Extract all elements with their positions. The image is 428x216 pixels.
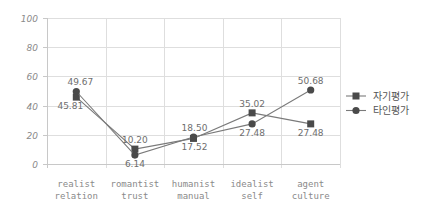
x-tick-label-line: trust xyxy=(121,191,148,201)
data-label: 6.14 xyxy=(125,159,145,169)
legend-item: 자기평가 xyxy=(346,91,409,102)
y-tick-label: 80 xyxy=(27,43,39,53)
x-tick-label-line: realist xyxy=(57,179,95,189)
x-tick-label-line: romantist xyxy=(111,179,160,189)
y-tick-label: 60 xyxy=(27,72,39,82)
square-marker-icon xyxy=(353,93,360,100)
x-tick-label: romantisttrust xyxy=(111,179,160,201)
square-marker-icon xyxy=(307,120,314,127)
legend-label: 타인평가 xyxy=(373,105,409,116)
legend: 자기평가타인평가 xyxy=(346,91,409,117)
x-tick-label-line: self xyxy=(241,191,263,201)
data-label: 27.48 xyxy=(298,128,324,138)
x-tick-label-line: relation xyxy=(55,191,98,201)
y-tick-label: 40 xyxy=(27,102,39,112)
y-tick-label: 20 xyxy=(27,131,39,141)
x-tick-label-line: agent xyxy=(297,179,324,189)
circle-marker-icon xyxy=(307,86,314,93)
data-label: 10.20 xyxy=(122,135,148,145)
x-tick-label-line: humanist xyxy=(172,179,215,189)
data-label: 18.50 xyxy=(182,123,208,133)
x-tick-label: agentculture xyxy=(292,179,330,201)
circle-marker-icon xyxy=(352,107,359,114)
square-marker-icon xyxy=(249,109,256,116)
circle-marker-icon xyxy=(249,120,256,127)
x-axis-tick-labels: realistrelationromantisttrusthumanistman… xyxy=(55,179,330,201)
data-label: 27.48 xyxy=(239,128,265,138)
circle-marker-icon xyxy=(73,88,80,95)
x-tick-label-line: idealist xyxy=(230,179,273,189)
x-tick-label: humanistmanual xyxy=(172,179,215,201)
legend-item: 타인평가 xyxy=(346,105,409,116)
data-label: 50.68 xyxy=(298,76,324,86)
y-tick-label: 100 xyxy=(21,14,38,24)
data-label: 49.67 xyxy=(67,77,93,87)
legend-label: 자기평가 xyxy=(373,91,409,102)
y-axis-tick-labels: 020406080100 xyxy=(21,14,38,170)
circle-marker-icon xyxy=(190,133,197,140)
x-tick-label-line: culture xyxy=(292,191,330,201)
data-labels: 49.6745.8110.206.1418.5017.5235.0227.485… xyxy=(57,76,323,169)
x-tick-label: realistrelation xyxy=(55,179,98,201)
line-chart: 020406080100 realistrelationromantisttru… xyxy=(0,0,428,216)
circle-marker-icon xyxy=(131,151,138,158)
data-label: 45.81 xyxy=(57,101,83,111)
y-tick-label: 0 xyxy=(32,160,38,170)
x-tick-label-line: manual xyxy=(177,191,210,201)
data-label: 17.52 xyxy=(182,142,208,152)
x-tick-label: idealistself xyxy=(230,179,273,201)
data-label: 35.02 xyxy=(239,99,265,109)
